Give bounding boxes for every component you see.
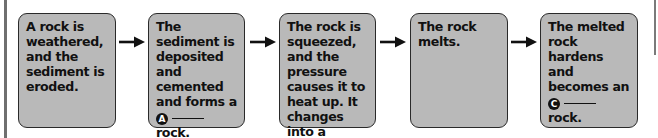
flow-step-1: A rock is weathered, and the sediment is… — [18, 13, 116, 128]
flow-step-3: The rock is squeezed, and the pressure c… — [279, 13, 376, 128]
right-arrow-icon — [250, 36, 276, 48]
answer-blank-a — [172, 118, 204, 119]
right-arrow-icon — [511, 36, 537, 48]
step-4-text: The rock melts. — [418, 19, 476, 49]
right-arrow-icon — [119, 36, 145, 48]
step-3-text: The rock is squeezed, and the pressure c… — [287, 19, 365, 138]
answer-badge-a: A — [156, 113, 168, 125]
step-5-text: The melted rock hardens and becomes an — [548, 19, 629, 94]
right-arrow-icon — [380, 36, 406, 48]
flow-step-2: The sediment is deposited and cemented a… — [148, 13, 245, 128]
step-1-text: A rock is weathered, and the sediment is… — [26, 19, 104, 94]
right-margin-rule — [654, 0, 656, 55]
flow-step-4: The rock melts. — [410, 13, 508, 128]
left-margin-rule — [4, 0, 7, 138]
step-2-text-end: rock. — [156, 125, 190, 138]
answer-blank-c — [564, 103, 596, 104]
step-5-text-end: rock. — [548, 110, 582, 125]
answer-badge-c: C — [548, 98, 560, 110]
flow-step-5: The melted rock hardens and becomes an C… — [540, 13, 638, 128]
step-2-text: The sediment is deposited and cemented a… — [156, 19, 237, 109]
